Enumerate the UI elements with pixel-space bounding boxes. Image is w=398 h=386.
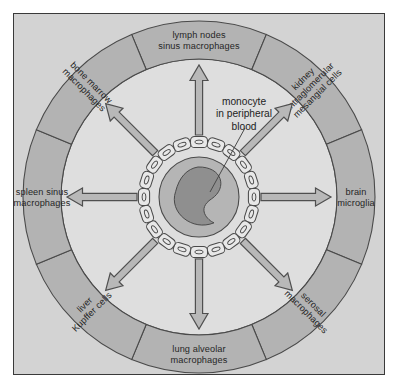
endothelial-cell-body bbox=[138, 189, 149, 206]
endothelial-cell-body bbox=[191, 136, 208, 147]
endothelial-cell-body bbox=[248, 189, 259, 206]
mononuclear-phagocyte-diagram: lymph nodessinus macrophageskidneyintrag… bbox=[0, 0, 398, 386]
ring-segment-label-lung: lung alveolarmacrophages bbox=[171, 344, 228, 364]
endothelial-cell bbox=[248, 189, 259, 206]
figure-canvas: lymph nodessinus macrophageskidneyintrag… bbox=[0, 0, 398, 386]
endothelial-cell bbox=[191, 246, 208, 257]
endothelial-cell bbox=[191, 136, 208, 147]
ring-segment-label-spleen: spleen sinusmacrophages bbox=[14, 187, 71, 207]
endothelial-cell bbox=[138, 189, 149, 206]
endothelial-cell-body bbox=[191, 246, 208, 257]
